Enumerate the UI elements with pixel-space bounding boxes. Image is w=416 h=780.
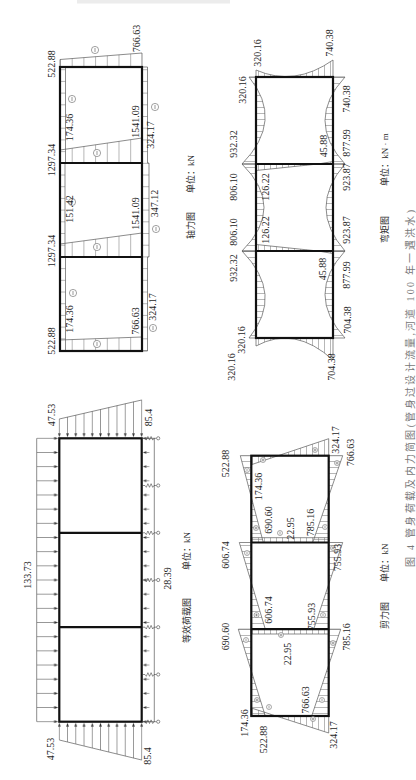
axial-bottom-slab-middle: 347.12 bbox=[149, 190, 160, 218]
moment-bottom-right-support-outer: 877.99 bbox=[341, 129, 352, 157]
right-wall-axial-trapezoid bbox=[60, 53, 142, 67]
moment-top-right-support-middle: 806.10 bbox=[228, 173, 239, 201]
shear-bottom-slab-left-left-end: 766.63 bbox=[300, 686, 311, 714]
moment-top-slab-left bbox=[242, 251, 265, 338]
axial-left-wall-bottom: 766.63 bbox=[130, 307, 141, 335]
moment-top-left-support-middle: 806.10 bbox=[228, 218, 239, 246]
moment-left-wall bbox=[256, 338, 333, 360]
moment-left-wall-top: 320.16 bbox=[226, 353, 237, 381]
shear-top-slab-middle-negative bbox=[239, 543, 251, 583]
minus-sign-icon bbox=[321, 613, 326, 618]
plus-sign-icon bbox=[311, 717, 316, 722]
minus-sign-icon bbox=[152, 225, 159, 232]
minus-sign-icon bbox=[69, 289, 76, 296]
minus-sign-icon bbox=[245, 551, 250, 556]
moment-inner-wall-left bbox=[256, 245, 333, 254]
moment-inner-wall-right-top: 126.22 bbox=[260, 173, 271, 201]
left-side-load-bottom-value: 85.4 bbox=[142, 747, 153, 765]
rotated-figure-page: 133.73 47.53 85.4 47.53 85.4 28.39 等效荷载图… bbox=[0, 0, 416, 780]
shear-top-slab-right-right-end: 522.88 bbox=[220, 450, 231, 478]
moment-bottom-right-support-middle: 923.87 bbox=[341, 163, 352, 191]
shear-diagram-unit: 单位：kN bbox=[379, 543, 390, 582]
figure-caption: 图 4 管身荷载及内力简图(管身过设计流量,河道 100 年一遇洪水) bbox=[404, 210, 416, 567]
shear-right-wall-bottom: 324.17 bbox=[330, 426, 341, 454]
shear-inner-wall-right: 22.95 bbox=[285, 517, 296, 540]
axial-right-wall-top: 522.88 bbox=[46, 50, 57, 78]
plus-sign-icon bbox=[254, 526, 259, 531]
shear-top-slab-right-negative bbox=[240, 456, 251, 498]
axial-top-slab-middle: 151.42 bbox=[64, 195, 75, 223]
moment-diagram-unit: 单位：kN · m bbox=[379, 133, 390, 186]
inner-wall-right-axial-trapezoid bbox=[60, 138, 142, 163]
moment-top-right-support-outer: 932.32 bbox=[228, 130, 239, 158]
moment-inner-wall-right-bottom: 45.88 bbox=[318, 135, 329, 158]
minus-sign-icon bbox=[68, 95, 75, 102]
minus-sign-icon bbox=[93, 149, 100, 156]
axial-diagram-unit: 单位：kN bbox=[185, 155, 196, 194]
plus-sign-icon bbox=[254, 613, 259, 618]
shear-top-slab-left-negative bbox=[238, 629, 251, 671]
axial-force-diagram: 522.88 174.36 766.63 324.17 1297.34 151.… bbox=[46, 25, 197, 355]
load-diagram-unit: 单位：kN bbox=[181, 532, 192, 571]
minus-sign-icon bbox=[245, 468, 250, 473]
moment-bottom-slab-right-end: 740.38 bbox=[341, 85, 352, 113]
bottom-pressure-value: 28.39 bbox=[162, 567, 173, 590]
minus-sign-icon bbox=[91, 46, 98, 53]
culvert-frame bbox=[256, 77, 333, 338]
plus-sign-icon bbox=[313, 448, 318, 453]
moment-inner-wall-right bbox=[256, 162, 333, 171]
moment-bottom-left-support-middle: 923.87 bbox=[341, 216, 352, 244]
figure-canvas: 133.73 47.53 85.4 47.53 85.4 28.39 等效荷载图… bbox=[0, 0, 416, 780]
shear-bottom-slab-right-left-end: 785.16 bbox=[305, 509, 316, 537]
shear-force-diagram: 174.36 522.88 766.63 324.17 690.60 22.95… bbox=[220, 426, 391, 753]
axial-inner-wall-left-top: 1297.34 bbox=[46, 235, 57, 268]
moment-left-wall-bottom: 704.38 bbox=[326, 353, 337, 381]
minus-sign-icon bbox=[323, 525, 328, 530]
load-diagram: 133.73 47.53 85.4 47.53 85.4 28.39 等效荷载图… bbox=[22, 400, 193, 765]
right-side-load-arrows bbox=[58, 400, 143, 438]
shear-bottom-slab-left-right-end: 785.16 bbox=[341, 623, 352, 651]
left-side-load-arrows bbox=[58, 723, 143, 761]
axial-diagram-title: 轴力图 bbox=[185, 212, 196, 239]
minus-sign-icon bbox=[244, 638, 249, 643]
top-load-arrows bbox=[37, 437, 59, 723]
axial-inner-wall-right-top: 1297.34 bbox=[46, 144, 57, 177]
minus-sign-icon bbox=[278, 531, 283, 536]
shear-bottom-slab-left-positive bbox=[329, 629, 341, 665]
shear-bottom-slab-middle-left-end: 755.93 bbox=[306, 603, 317, 631]
shear-left-wall-top: 174.36 bbox=[239, 709, 250, 737]
minus-sign-icon bbox=[93, 243, 100, 250]
left-wall-axial-trapezoid bbox=[60, 337, 142, 351]
plus-sign-icon bbox=[279, 633, 284, 638]
shear-top-slab-middle-right-end: 606.74 bbox=[220, 541, 231, 569]
left-side-load-top-value: 47.53 bbox=[45, 738, 56, 761]
axial-top-slab-right: 174.36 bbox=[64, 114, 75, 142]
shear-diagram-title: 剪力图 bbox=[379, 602, 390, 629]
moment-top-slab-right-end: 320.16 bbox=[237, 76, 248, 104]
minus-sign-icon bbox=[151, 103, 158, 110]
plus-sign-icon bbox=[335, 461, 340, 466]
moment-inner-wall-left-bottom: 45.88 bbox=[317, 258, 328, 281]
moment-right-wall-top: 320.16 bbox=[252, 39, 263, 67]
plus-sign-icon bbox=[261, 458, 266, 463]
shear-top-slab-left-right-end: 690.60 bbox=[220, 623, 231, 651]
minus-sign-icon bbox=[267, 705, 272, 710]
minus-sign-icon bbox=[149, 324, 156, 331]
moment-bottom-slab-left-end: 704.38 bbox=[342, 306, 353, 334]
plus-sign-icon bbox=[255, 698, 260, 703]
axial-bottom-slab-right: 324.17 bbox=[145, 121, 156, 149]
shear-bottom-slab-left-negative bbox=[312, 665, 329, 716]
shear-top-slab-right-positive bbox=[251, 497, 263, 542]
minus-sign-icon bbox=[93, 340, 100, 347]
shear-top-slab-middle-left-end: 606.74 bbox=[263, 596, 274, 624]
axial-bottom-slab-left: 324.17 bbox=[147, 293, 158, 321]
moment-inner-wall-left-top: 126.22 bbox=[260, 216, 271, 244]
shear-bottom-slab-middle-right-end: 755.93 bbox=[332, 544, 343, 572]
moment-top-left-support-outer: 932.32 bbox=[228, 254, 239, 282]
axial-top-slab-left: 174.36 bbox=[64, 305, 75, 333]
shear-bottom-slab-right-right-end: 766.63 bbox=[345, 439, 356, 467]
minus-sign-icon bbox=[320, 698, 325, 703]
moment-bottom-left-support-outer: 877.99 bbox=[341, 261, 352, 289]
top-load-value: 133.73 bbox=[22, 561, 33, 589]
load-diagram-title: 等效荷载图 bbox=[181, 598, 192, 643]
